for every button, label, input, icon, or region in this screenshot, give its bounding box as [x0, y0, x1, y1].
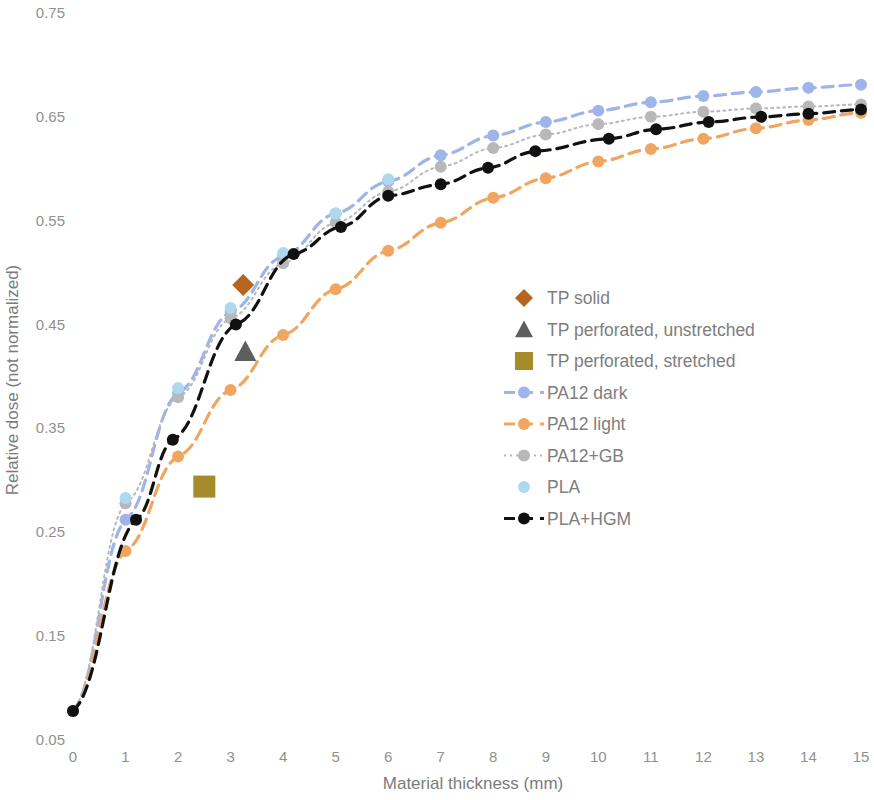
circle-marker — [172, 382, 184, 394]
circle-marker — [697, 90, 709, 102]
triangle-marker — [515, 321, 533, 338]
series-tp-perforated-stretched — [193, 476, 215, 498]
legend-item-pa12-light[interactable] — [504, 418, 544, 430]
circle-marker — [592, 105, 604, 117]
circle-marker — [518, 418, 530, 430]
y-axis-tick-labels: 0.050.150.250.350.450.550.650.75 — [36, 4, 65, 748]
circle-marker — [382, 245, 394, 257]
circle-marker — [330, 283, 342, 295]
circle-marker — [130, 514, 142, 526]
circle-marker — [67, 705, 79, 717]
circle-marker — [288, 248, 300, 260]
circle-marker — [225, 302, 237, 314]
legend-item-tp-perforated-unstretched[interactable] — [515, 321, 533, 338]
series-pla-hgm — [67, 104, 867, 717]
relative-dose-chart: 0.050.150.250.350.450.550.650.75 0123456… — [0, 0, 874, 800]
circle-marker — [540, 116, 552, 128]
series-pla — [67, 173, 394, 717]
circle-marker — [802, 82, 814, 94]
y-tick-label: 0.25 — [36, 523, 65, 540]
x-tick-label: 5 — [331, 748, 339, 765]
circle-marker — [435, 161, 447, 173]
circle-marker — [603, 133, 615, 145]
x-tick-label: 11 — [643, 748, 659, 765]
circle-marker — [382, 190, 394, 202]
x-tick-label: 13 — [748, 748, 765, 765]
circle-marker — [120, 492, 132, 504]
series-layer — [67, 79, 867, 717]
circle-marker — [277, 329, 289, 341]
legend-label: TP perforated, stretched — [547, 351, 735, 371]
circle-marker — [540, 172, 552, 184]
circle-marker — [592, 118, 604, 130]
circle-marker — [225, 384, 237, 396]
y-tick-label: 0.15 — [36, 627, 65, 644]
circle-marker — [750, 122, 762, 134]
circle-marker — [518, 513, 530, 525]
x-tick-label: 10 — [590, 748, 607, 765]
circle-marker — [645, 111, 657, 123]
legend-item-pla[interactable] — [518, 481, 530, 493]
y-tick-label: 0.65 — [36, 108, 65, 125]
legend-item-pa12-gb[interactable] — [504, 450, 544, 462]
circle-marker — [650, 123, 662, 135]
circle-marker — [487, 192, 499, 204]
circle-marker — [487, 130, 499, 142]
legend-label: PLA+HGM — [547, 509, 631, 529]
series-line — [73, 104, 861, 711]
x-tick-label: 1 — [121, 748, 129, 765]
circle-marker — [518, 450, 530, 462]
x-tick-label: 6 — [384, 748, 392, 765]
circle-marker — [592, 156, 604, 168]
square-marker — [515, 352, 533, 370]
y-tick-label: 0.55 — [36, 212, 65, 229]
legend-item-pa12-dark[interactable] — [504, 387, 544, 399]
legend-label: PA12 light — [547, 414, 626, 434]
legend-label: PA12+GB — [547, 446, 624, 466]
series-pa12-gb — [67, 98, 867, 717]
x-tick-label: 0 — [69, 748, 77, 765]
legend-item-pla-hgm[interactable] — [504, 513, 544, 525]
circle-marker — [518, 387, 530, 399]
circle-marker — [855, 79, 867, 91]
x-tick-label: 12 — [695, 748, 712, 765]
x-tick-label: 7 — [437, 748, 445, 765]
y-tick-label: 0.35 — [36, 419, 65, 436]
y-tick-label: 0.75 — [36, 4, 65, 21]
series-line — [73, 110, 861, 711]
diamond-marker — [515, 289, 533, 307]
circle-marker — [487, 142, 499, 154]
chart-container: 0.050.150.250.350.450.550.650.75 0123456… — [0, 0, 874, 800]
circle-marker — [518, 481, 530, 493]
circle-marker — [167, 434, 179, 446]
legend-item-tp-perforated-stretched[interactable] — [515, 352, 533, 370]
circle-marker — [703, 116, 715, 128]
circle-marker — [482, 162, 494, 174]
circle-marker — [697, 133, 709, 145]
circle-marker — [755, 111, 767, 123]
circle-marker — [382, 173, 394, 185]
circle-marker — [435, 149, 447, 161]
square-marker — [193, 476, 215, 498]
x-tick-label: 3 — [226, 748, 234, 765]
circle-marker — [540, 129, 552, 141]
circle-marker — [435, 178, 447, 190]
legend-item-tp-solid[interactable] — [515, 289, 533, 307]
x-tick-label: 9 — [542, 748, 550, 765]
legend-label: PLA — [547, 477, 580, 497]
circle-marker — [802, 108, 814, 120]
circle-marker — [529, 145, 541, 157]
series-line — [73, 85, 861, 711]
circle-marker — [645, 96, 657, 108]
series-pa12-dark — [67, 79, 867, 717]
circle-marker — [172, 450, 184, 462]
legend-label: TP solid — [547, 288, 610, 308]
legend-label: PA12 dark — [547, 383, 628, 403]
legend-label: TP perforated, unstretched — [547, 320, 755, 340]
circle-marker — [750, 86, 762, 98]
circle-marker — [120, 514, 132, 526]
x-axis-title: Material thickness (mm) — [383, 774, 563, 793]
x-tick-label: 15 — [853, 748, 870, 765]
x-tick-label: 2 — [174, 748, 182, 765]
triangle-marker — [234, 341, 256, 361]
